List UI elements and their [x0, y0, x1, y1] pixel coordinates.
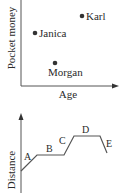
scatter-y-label: Pocket money [5, 6, 17, 69]
point-morgan [53, 61, 58, 66]
distance-y-label: Distance [5, 151, 17, 190]
diagram-canvas: Pocket money Age Karl Janica Morgan Dist… [0, 0, 124, 193]
segment-label-a: A [24, 151, 32, 162]
x-axis-arrow-icon [112, 84, 119, 89]
y-axis-arrow-icon [19, 113, 24, 120]
point-janica [33, 31, 38, 36]
label-morgan: Morgan [48, 66, 83, 78]
scatter-chart: Pocket money Age Karl Janica Morgan [5, 0, 119, 100]
distance-graph: Distance A B C D E [5, 113, 112, 193]
scatter-x-label: Age [59, 88, 77, 100]
segment-label-d: D [82, 124, 89, 135]
segment-label-b: B [46, 143, 53, 154]
point-karl [80, 14, 85, 19]
label-karl: Karl [86, 10, 106, 22]
segment-label-e: E [106, 138, 112, 149]
segment-label-c: C [59, 135, 66, 146]
label-janica: Janica [39, 27, 67, 39]
